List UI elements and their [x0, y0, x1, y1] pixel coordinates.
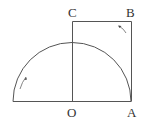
- label-b: B: [126, 5, 135, 20]
- label-a: A: [127, 105, 137, 120]
- label-o: O: [67, 105, 76, 120]
- geometry-diagram: C B O A: [0, 0, 146, 125]
- label-c: C: [68, 5, 77, 20]
- rectangle-oabc: [73, 22, 132, 102]
